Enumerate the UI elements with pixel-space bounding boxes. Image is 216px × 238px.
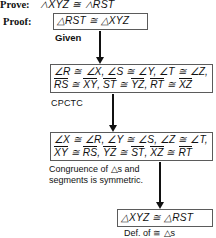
comma: , (144, 79, 147, 90)
congruent-symbol: ≅ (71, 147, 80, 158)
reason-symmetric-line-2: segments is symmetric. (49, 175, 143, 186)
congruent-symbol: ≅ (167, 79, 176, 90)
reason-given: Given (55, 32, 81, 43)
statement-box-3: ∠X ≅ ∠R, ∠Y ≅ ∠S, ∠Z ≅ ∠T, XY ≅ RS, YZ ≅… (50, 132, 213, 161)
reason-symmetric-line-1: Congruence of △s and (49, 164, 143, 175)
congruent-symbol: ≅ (71, 79, 80, 90)
segment-name: ST (131, 146, 144, 158)
statement-box-3-line-2: XY ≅ RS, YZ ≅ ST, XZ ≅ RT (51, 146, 212, 160)
segment-name: YZ (131, 78, 144, 90)
statement-box-2-line-1: ∠R ≅ ∠X, ∠S ≅ ∠Y, ∠T ≅ ∠Z, (51, 66, 212, 79)
statement-box-4: △XYZ ≅ △RST (117, 209, 213, 227)
segment-name: XY (83, 78, 97, 90)
reason-definition: Def. of ≅ △s (124, 228, 175, 238)
congruent-symbol: ≅ (119, 79, 128, 90)
flow-arrow-1 (99, 31, 101, 58)
prove-statement: △XYZ ≅ △RST (40, 0, 114, 8)
comma: , (144, 147, 147, 158)
reason-cpctc: CPCTC (51, 98, 83, 109)
statement-box-1-line-1: △RST ≅ △XYZ (54, 15, 147, 28)
statement-box-3-line-1: ∠X ≅ ∠R, ∠Y ≅ ∠S, ∠Z ≅ ∠T, (51, 134, 212, 147)
flow-proof-figure: Prove: △XYZ ≅ △RST Proof: △RST ≅ △XYZ Gi… (0, 0, 216, 238)
statement-box-4-line-1: △XYZ ≅ △RST (118, 212, 212, 225)
reason-symmetric: Congruence of △s and segments is symmetr… (49, 164, 143, 186)
prove-label: Prove: (0, 0, 30, 8)
segment-name: RS (83, 146, 97, 158)
flow-arrow-3 (159, 162, 161, 203)
congruent-symbol: ≅ (119, 147, 128, 158)
segment-name: XY (54, 146, 68, 158)
segment-name: RS (54, 78, 68, 90)
prove-row: Prove: △XYZ ≅ △RST (0, 0, 216, 8)
statement-box-2: ∠R ≅ ∠X, ∠S ≅ ∠Y, ∠T ≅ ∠Z, RS ≅ XY, ST ≅… (50, 64, 213, 93)
segment-name: ST (103, 78, 116, 90)
comma: , (97, 79, 100, 90)
segment-name: RT (179, 146, 193, 158)
segment-name: YZ (103, 146, 116, 158)
congruent-symbol: ≅ (166, 147, 175, 158)
proof-label: Proof: (3, 16, 31, 27)
segment-name: XZ (150, 146, 163, 158)
statement-box-1: △RST ≅ △XYZ (53, 13, 148, 30)
segment-name: XZ (179, 78, 192, 90)
comma: , (97, 147, 100, 158)
statement-box-2-line-2: RS ≅ XY, ST ≅ YZ, RT ≅ XZ (51, 78, 212, 92)
segment-name: RT (150, 78, 164, 90)
flow-arrow-2 (112, 94, 114, 126)
